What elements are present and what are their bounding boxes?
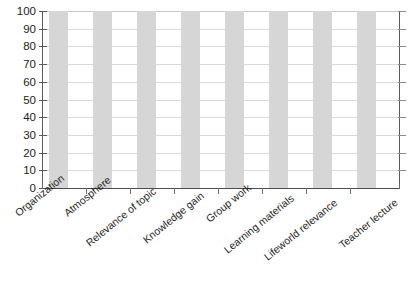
y-tick-label: 30 (0, 130, 36, 142)
y-tick-mark-right (398, 11, 406, 12)
bar (181, 11, 200, 188)
x-category-label: Teacher lecture (337, 197, 400, 251)
bar (49, 11, 68, 188)
y-tick-label: 50 (0, 95, 36, 107)
x-axis-category-labels: Organization Atmosphere Relevance of top… (0, 192, 417, 292)
y-tick-mark-right (398, 46, 406, 47)
y-tick-mark-right (398, 100, 406, 101)
plot-area (42, 11, 400, 188)
bar-chart: 100 90 80 70 60 50 40 30 20 10 0 (0, 0, 417, 292)
y-tick-mark-right (398, 82, 406, 83)
bar (313, 11, 332, 188)
y-tick-mark-right (398, 29, 406, 30)
y-tick-label: 60 (0, 77, 36, 89)
bar (357, 11, 376, 188)
y-tick-mark-right (398, 135, 406, 136)
bar (269, 11, 288, 188)
y-tick-label: 80 (0, 41, 36, 53)
y-tick-mark-right (398, 117, 406, 118)
bars-layer (43, 11, 399, 188)
x-axis-endcap-right (399, 183, 400, 189)
y-axis-tick-labels: 100 90 80 70 60 50 40 30 20 10 0 (0, 6, 36, 188)
bar (225, 11, 244, 188)
y-tick-label: 40 (0, 112, 36, 124)
y-tick-label: 10 (0, 165, 36, 177)
y-tick-label: 70 (0, 59, 36, 71)
y-tick-label: 100 (0, 6, 36, 18)
bar (93, 11, 112, 188)
y-tick-mark-right (398, 153, 406, 154)
y-tick-label: 90 (0, 24, 36, 36)
y-tick-label: 20 (0, 148, 36, 160)
y-tick-mark-right (398, 170, 406, 171)
y-tick-mark-right (398, 64, 406, 65)
bar (137, 11, 156, 188)
